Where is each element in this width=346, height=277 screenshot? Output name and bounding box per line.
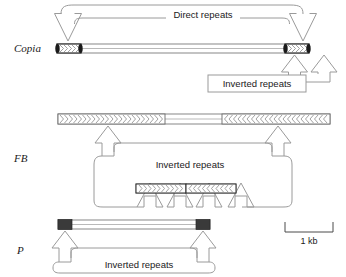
fb-arrow-right: [265, 126, 291, 156]
fb-arrow-left: [95, 126, 121, 156]
copia-outer-right-arrowhead: [290, 14, 317, 42]
copia-ltr-right-endcap: [306, 44, 310, 53]
copia-element-label: Copia: [14, 42, 41, 54]
copia-body-bar: [55, 44, 310, 53]
p-ir-block-right: [196, 220, 210, 230]
p-ir-block-left: [58, 220, 72, 230]
fb-lead-left-outer: [94, 156, 137, 207]
p-arrow-right: [190, 231, 216, 262]
scale-bar-label: 1 kb: [300, 236, 317, 246]
p-inner-connector: [71, 248, 197, 258]
copia-inverted-repeats-label-group: Inverted repeats: [208, 75, 306, 92]
p-body-bar: [58, 220, 210, 230]
copia-inverted-repeats-label: Inverted repeats: [223, 78, 292, 89]
p-inverted-repeats-label: Inverted repeats: [105, 259, 174, 270]
fb-ir-region-left: [58, 114, 165, 124]
copia-ltr-left-cap: [55, 44, 59, 53]
copia-ltr-right-cap: [283, 44, 287, 53]
fb-inverted-repeats-label: Inverted repeats: [156, 159, 225, 170]
copia-element-group: Direct repeats: [14, 5, 337, 92]
p-element-label: P: [16, 244, 24, 256]
fb-body-bar: [58, 114, 330, 124]
scale-bar-bracket: [285, 222, 333, 232]
fb-upper-connector: [114, 143, 272, 152]
fb-element-label: FB: [13, 152, 28, 164]
p-element-group: Inverted repeats P: [16, 220, 216, 274]
copia-direct-repeats-label: Direct repeats: [173, 9, 232, 20]
copia-ltr-block-left: [55, 44, 82, 53]
diagram-canvas: Direct repeats: [0, 0, 346, 277]
scale-bar-group: 1 kb: [285, 222, 333, 246]
copia-outer-left-arrowhead: [55, 14, 82, 42]
copia-ltr-left-endcap: [78, 44, 82, 53]
p-arrow-left: [52, 231, 78, 262]
copia-ltr-block-right: [283, 44, 310, 53]
fb-derivative-bar: [136, 184, 236, 193]
transposable-element-diagram: Direct repeats: [0, 0, 346, 277]
fb-element-group: Inverted repeats: [13, 114, 330, 207]
fb-ir-region-right: [222, 114, 330, 124]
